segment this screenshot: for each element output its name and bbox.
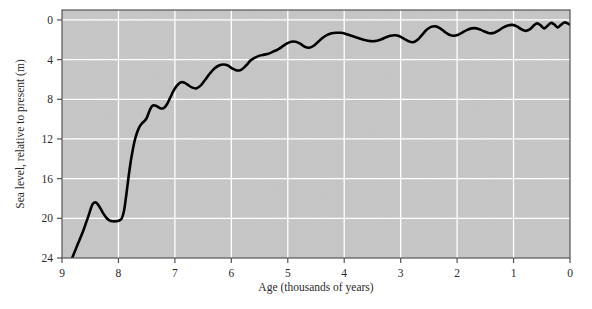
y-axis-ticks: 04812162024	[42, 14, 63, 264]
x-tick-label: 5	[285, 267, 291, 279]
y-tick-label: 4	[47, 54, 53, 66]
x-axis-ticks: 9876543210	[59, 258, 573, 279]
x-tick-label: 1	[511, 267, 517, 279]
x-tick-label: 7	[172, 267, 178, 279]
y-tick-label: 20	[42, 212, 54, 224]
x-tick-label: 4	[341, 267, 347, 279]
y-tick-label: 8	[47, 93, 53, 105]
y-axis-title: Sea level, relative to present (m)	[14, 59, 27, 209]
chart-svg: 04812162024 9876543210 Sea level, relati…	[0, 0, 592, 309]
x-tick-label: 9	[59, 267, 65, 279]
x-tick-label: 2	[454, 267, 460, 279]
x-axis-title: Age (thousands of years)	[258, 281, 373, 294]
y-tick-label: 16	[42, 173, 54, 185]
y-tick-label: 12	[42, 133, 54, 145]
x-tick-label: 3	[398, 267, 404, 279]
plot-background-texture	[62, 10, 570, 258]
y-tick-label: 24	[42, 252, 54, 264]
x-tick-label: 0	[567, 267, 573, 279]
x-tick-label: 6	[228, 267, 234, 279]
x-tick-label: 8	[116, 267, 122, 279]
y-tick-label: 0	[47, 14, 53, 26]
sea-level-chart-figure: 04812162024 9876543210 Sea level, relati…	[0, 0, 592, 309]
